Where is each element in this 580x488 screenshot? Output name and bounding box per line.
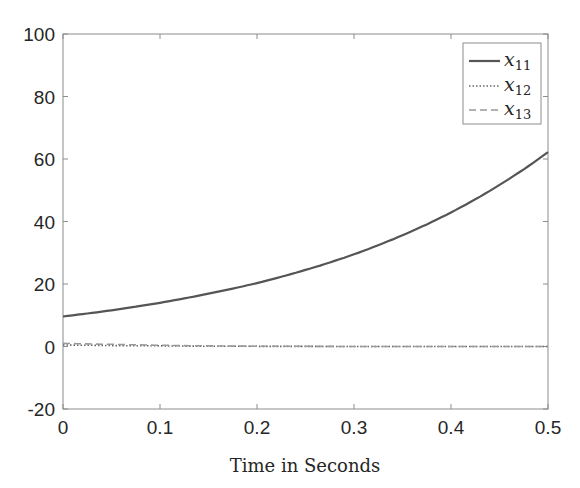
legend: x11x12x13 [463,43,541,124]
y-tick-label: 100 [23,24,55,45]
y-tick-label: 80 [34,87,55,108]
x-tick-label: 0.1 [147,417,173,438]
x-tick-label: 0.3 [341,417,367,438]
y-tick-label: -20 [28,399,55,420]
x-axis-title: Time in Seconds [230,455,381,476]
y-tick-label: 60 [34,149,55,170]
x-tick-label: 0.2 [244,417,270,438]
y-tick-label: 40 [34,212,55,233]
x-tick-label: 0 [58,417,69,438]
y-tick-label: 20 [34,274,55,295]
y-tick-label: 0 [44,337,55,358]
line-chart: 00.10.20.30.40.5 -20020406080100 Time in… [0,0,580,488]
x-tick-label: 0.5 [535,417,561,438]
x-tick-label: 0.4 [438,417,465,438]
